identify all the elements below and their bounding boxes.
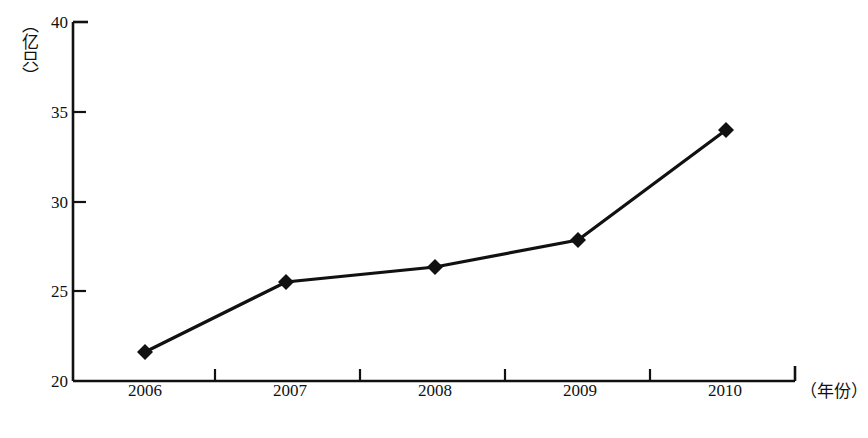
data-point-2008 bbox=[427, 259, 443, 275]
axis-lines bbox=[73, 22, 795, 381]
line-chart: （亿只） 40 35 30 25 20 2006 2007 2008 2009 … bbox=[0, 0, 868, 438]
data-point-2006 bbox=[137, 344, 153, 360]
y-axis-ticks bbox=[73, 112, 86, 291]
data-series-line bbox=[145, 130, 726, 352]
plot-area bbox=[0, 0, 868, 438]
data-point-markers bbox=[137, 122, 734, 360]
x-axis-ticks bbox=[215, 369, 650, 381]
data-point-2007 bbox=[278, 274, 294, 290]
